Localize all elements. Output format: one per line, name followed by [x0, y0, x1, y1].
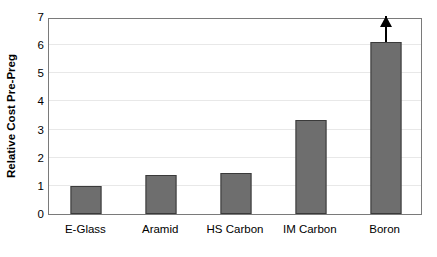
bar-series	[49, 19, 421, 214]
y-tick-label: 0	[22, 209, 44, 221]
bar-hs-carbon	[220, 173, 251, 214]
bar-slot	[348, 19, 423, 214]
y-tick-label: 4	[22, 96, 44, 108]
x-tick-label: Aramid	[123, 222, 198, 236]
bar-slot	[199, 19, 274, 214]
bar-e-glass	[71, 186, 102, 214]
y-tick-label: 6	[22, 40, 44, 52]
up-arrow-icon	[379, 16, 393, 42]
bar-slot	[49, 19, 124, 214]
bar-boron	[370, 42, 401, 214]
x-tick-label: Boron	[347, 222, 422, 236]
x-axis-tick-labels: E-GlassAramidHS CarbonIM CarbonBoron	[48, 222, 422, 240]
bar-aramid	[146, 175, 177, 214]
plot-area	[48, 18, 422, 215]
y-tick-label: 1	[22, 181, 44, 193]
x-tick-label: E-Glass	[48, 222, 123, 236]
up-arrow-head	[380, 16, 392, 27]
bar-slot	[124, 19, 199, 214]
bar-chart-figure: Relative Cost Pre-Preg 01234567 E-GlassA…	[0, 0, 437, 257]
y-tick-label: 7	[22, 12, 44, 24]
x-tick-label: IM Carbon	[272, 222, 347, 236]
y-tick-label: 5	[22, 68, 44, 80]
x-tick-label: HS Carbon	[198, 222, 273, 236]
y-axis-tick-labels: 01234567	[22, 18, 44, 215]
y-tick-label: 3	[22, 125, 44, 137]
y-tick-label: 2	[22, 153, 44, 165]
bar-slot	[273, 19, 348, 214]
y-axis-title: Relative Cost Pre-Preg	[0, 1, 22, 231]
bar-im-carbon	[295, 120, 326, 214]
